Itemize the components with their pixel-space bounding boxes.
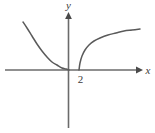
x-axis-label: x xyxy=(145,64,151,76)
y-axis-arrow-icon xyxy=(65,12,72,19)
x-axis-arrow-icon xyxy=(136,67,143,74)
curve-right-branch xyxy=(79,29,140,70)
math-graph-figure: y x 2 xyxy=(0,0,155,133)
x-tick-label-2: 2 xyxy=(78,73,84,85)
curve-left-branch xyxy=(23,22,69,70)
graph-canvas: y x 2 xyxy=(0,0,155,133)
y-axis-label: y xyxy=(65,0,71,11)
